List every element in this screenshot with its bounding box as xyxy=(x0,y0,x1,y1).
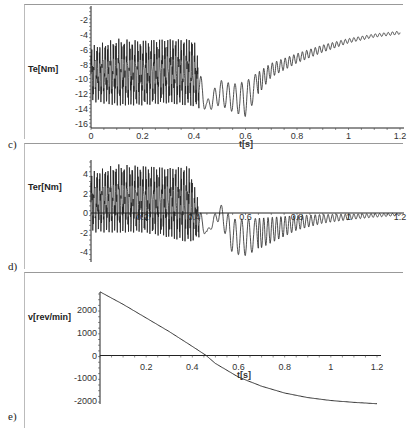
x-tick-label: 1 xyxy=(346,131,351,141)
plot-c: -2-4-6-8-10-12-14-1600.20.40.60.811.2t[s… xyxy=(75,6,406,149)
y-tick-label: -10 xyxy=(75,74,88,84)
y-tick-label: -2 xyxy=(80,228,88,238)
y-tick-label: -2 xyxy=(80,15,88,25)
x-tick-label: 0.2 xyxy=(136,131,149,141)
y-tick-label: 4 xyxy=(83,169,88,179)
x-tick-label: 0.4 xyxy=(186,362,199,372)
x-tick-label: 1.2 xyxy=(371,362,384,372)
x-tick-label: 0 xyxy=(88,131,93,141)
x-tick-label: 1.2 xyxy=(394,212,407,222)
y-tick-label: 0 xyxy=(83,208,88,218)
chart-canvas: -2-4-6-8-10-12-14-1600.20.40.60.811.2t[s… xyxy=(0,0,417,437)
y-tick-label: -2000 xyxy=(74,396,97,406)
y-tick-label: -4 xyxy=(80,247,88,257)
y-tick-label: -4 xyxy=(80,30,88,40)
y-tick-label: -14 xyxy=(75,104,88,114)
x-tick-label: 0.8 xyxy=(291,131,304,141)
y-tick-label: -6 xyxy=(80,45,88,55)
x-tick-label: 1.2 xyxy=(394,131,407,141)
x-tick-label: 0.2 xyxy=(140,362,153,372)
y-tick-label: 2 xyxy=(83,189,88,199)
torque-waveform xyxy=(91,164,400,255)
x-tick-label: 0.4 xyxy=(188,131,201,141)
y-tick-label: -8 xyxy=(80,60,88,70)
y-tick-label: 1000 xyxy=(77,328,97,338)
y-tick-label: -16 xyxy=(75,119,88,129)
speed-curve xyxy=(100,292,377,404)
x-tick-label: 1 xyxy=(328,362,333,372)
plot-e: 200010000-1000-20000.20.40.60.811.2t[s] xyxy=(74,292,383,406)
plot-d: 420-2-40.20.40.60.811.2 xyxy=(80,160,406,262)
y-tick-label: -1000 xyxy=(74,373,97,383)
y-tick-label: 2000 xyxy=(77,305,97,315)
torque-waveform xyxy=(91,31,400,116)
x-axis-label: t[s] xyxy=(237,370,251,380)
y-tick-label: 0 xyxy=(92,351,97,361)
y-tick-label: -12 xyxy=(75,89,88,99)
x-axis-label: t[s] xyxy=(239,139,253,149)
x-tick-label: 0.8 xyxy=(278,362,291,372)
